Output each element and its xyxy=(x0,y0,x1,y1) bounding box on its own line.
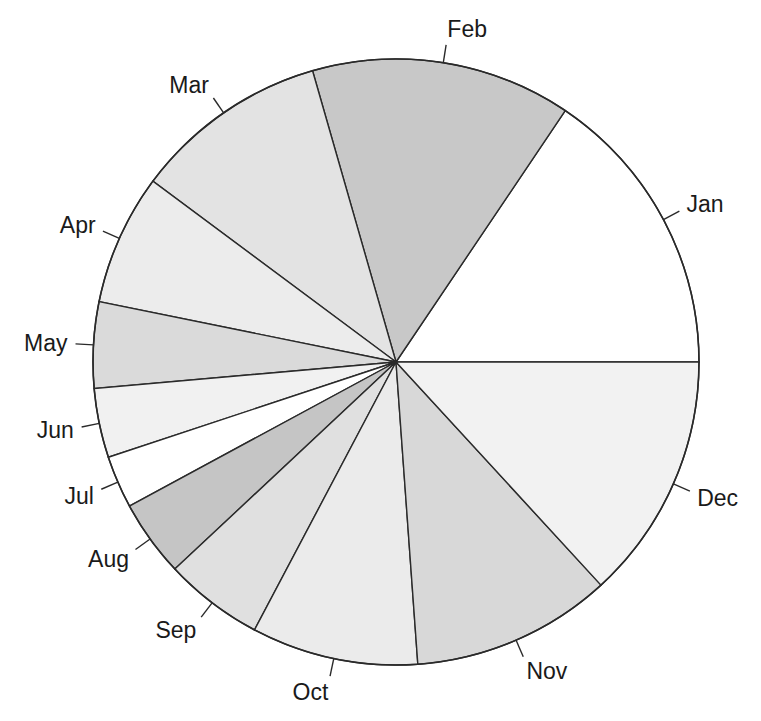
tick-aug xyxy=(135,539,150,550)
tick-sep xyxy=(201,603,212,617)
tick-jan xyxy=(663,211,679,219)
tick-nov xyxy=(516,640,523,657)
label-jan: Jan xyxy=(686,191,723,217)
label-may: May xyxy=(24,330,68,356)
pie-chart: JanFebMarAprMayJunJulAugSepOctNovDec xyxy=(0,0,761,721)
tick-mar xyxy=(213,98,223,113)
tick-jun xyxy=(82,423,100,427)
tick-apr xyxy=(103,231,119,238)
label-oct: Oct xyxy=(293,679,329,705)
label-mar: Mar xyxy=(169,72,209,98)
pie-slices xyxy=(93,59,699,665)
tick-feb xyxy=(443,45,446,63)
label-aug: Aug xyxy=(88,546,129,572)
label-nov: Nov xyxy=(526,658,567,684)
label-jun: Jun xyxy=(37,417,74,443)
label-jul: Jul xyxy=(65,483,94,509)
tick-jul xyxy=(101,482,118,489)
tick-may xyxy=(76,344,94,345)
tick-oct xyxy=(330,659,334,677)
label-sep: Sep xyxy=(155,617,196,643)
label-apr: Apr xyxy=(60,212,96,238)
label-dec: Dec xyxy=(697,485,738,511)
label-feb: Feb xyxy=(447,16,487,42)
tick-dec xyxy=(673,484,689,491)
